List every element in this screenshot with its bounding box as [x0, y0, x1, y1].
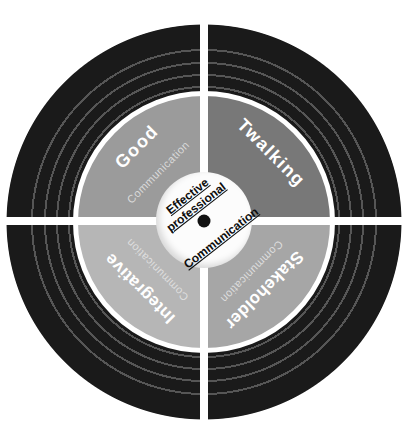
spindle-dot — [198, 215, 211, 228]
center-hub: Effective professional Communication — [156, 172, 252, 268]
communication-wheel-diagram: Good Communication Twalking Integrative … — [0, 0, 408, 425]
